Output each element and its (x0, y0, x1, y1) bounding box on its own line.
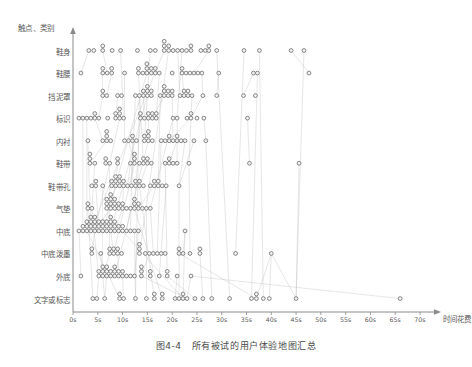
figure-caption-number: 图4-4 (156, 341, 182, 351)
data-point-marker (118, 292, 122, 296)
data-point-marker (189, 112, 193, 116)
data-point-marker (117, 202, 121, 206)
data-point-marker (145, 161, 149, 165)
data-point-marker (186, 94, 190, 98)
data-point-marker (140, 265, 144, 269)
data-point-marker (156, 184, 160, 188)
data-point-marker (97, 116, 101, 120)
x-axis-tick-label: 40s (266, 316, 277, 323)
data-point-marker (105, 94, 109, 98)
data-point-marker (101, 229, 105, 233)
data-point-marker (92, 49, 96, 53)
data-point-marker (138, 179, 142, 183)
data-point-marker (144, 297, 148, 301)
data-point-marker (122, 179, 126, 183)
data-point-marker (114, 112, 118, 116)
data-point-marker (90, 206, 94, 210)
data-point-marker (148, 206, 152, 210)
data-point-marker (123, 139, 127, 143)
data-point-marker (106, 116, 110, 120)
data-point-marker (207, 49, 211, 53)
data-point-marker (105, 224, 109, 228)
data-point-marker (81, 224, 85, 228)
data-point-marker (188, 71, 192, 75)
data-point-marker (181, 297, 185, 301)
data-point-marker (136, 49, 140, 53)
data-point-marker (146, 116, 150, 120)
data-point-marker (97, 229, 101, 233)
data-point-marker (117, 224, 121, 228)
data-point-marker (118, 184, 122, 188)
data-point-marker (101, 220, 105, 224)
data-point-marker (121, 229, 125, 233)
data-point-marker (125, 206, 129, 210)
data-point-marker (110, 67, 114, 71)
data-point-marker (125, 274, 129, 278)
connection-line (217, 51, 230, 299)
data-point-marker (171, 116, 175, 120)
connection-line (259, 51, 263, 299)
data-point-marker (117, 274, 121, 278)
connection-line (99, 96, 103, 119)
data-point-marker (85, 220, 89, 224)
data-point-marker (89, 229, 93, 233)
data-point-marker (101, 94, 105, 98)
data-point-marker (105, 139, 109, 143)
data-point-marker (149, 67, 153, 71)
data-point-marker (89, 220, 93, 224)
connection-line (247, 118, 249, 163)
data-point-marker (88, 152, 92, 156)
data-point-marker (167, 49, 171, 53)
data-point-marker (152, 179, 156, 183)
data-point-marker (113, 229, 117, 233)
y-axis-label: 标识 (2, 113, 70, 124)
connection-line (187, 276, 191, 299)
data-point-marker (167, 157, 171, 161)
data-point-marker (195, 116, 199, 120)
data-point-marker (171, 49, 175, 53)
data-point-marker (99, 252, 103, 256)
data-point-marker (155, 252, 159, 256)
connection-line (189, 163, 190, 253)
data-point-marker (138, 184, 142, 188)
data-point-marker (160, 297, 164, 301)
data-point-marker (184, 71, 188, 75)
data-point-marker (149, 89, 153, 93)
data-point-marker (113, 206, 117, 210)
data-point-marker (101, 184, 105, 188)
data-point-marker (113, 224, 117, 228)
data-point-marker (307, 71, 311, 75)
data-point-marker (163, 252, 167, 256)
data-point-marker (101, 265, 105, 269)
data-point-marker (204, 139, 208, 143)
data-point-marker (133, 157, 137, 161)
connection-line (179, 141, 185, 186)
data-point-marker (146, 139, 150, 143)
data-point-marker (165, 270, 169, 274)
data-point-marker (122, 184, 126, 188)
data-point-marker (139, 112, 143, 116)
data-point-marker (146, 112, 150, 116)
data-point-marker (109, 270, 113, 274)
data-point-marker (101, 71, 105, 75)
data-point-marker (121, 206, 125, 210)
connection-line (157, 141, 161, 254)
data-point-marker (129, 206, 133, 210)
data-point-marker (114, 184, 118, 188)
data-point-marker (113, 270, 117, 274)
data-point-marker (114, 179, 118, 183)
data-point-marker (93, 215, 97, 219)
data-point-marker (157, 274, 161, 278)
data-point-marker (180, 71, 184, 75)
data-point-marker (91, 297, 95, 301)
connection-line (244, 73, 254, 96)
data-point-marker (215, 94, 219, 98)
data-point-marker (86, 139, 90, 143)
connection-line (189, 96, 192, 164)
data-point-marker (108, 247, 112, 251)
data-point-marker (141, 161, 145, 165)
connection-line (150, 208, 153, 253)
data-point-marker (210, 297, 214, 301)
data-point-marker (145, 71, 149, 75)
data-point-marker (95, 297, 99, 301)
